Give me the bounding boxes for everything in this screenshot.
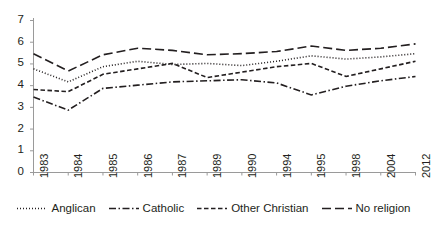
x-axis-tick-label: 1994	[282, 154, 293, 178]
legend-swatch-dashed-short	[197, 205, 227, 212]
x-axis-tick-label: 1998	[351, 154, 362, 178]
x-axis-tick-label: 1983	[39, 154, 50, 178]
y-axis-tick-label: 7	[2, 14, 24, 26]
legend-item-catholic[interactable]: Catholic	[109, 203, 185, 215]
legend-label: No religion	[356, 203, 411, 215]
legend-item-no-religion[interactable]: No religion	[322, 203, 411, 215]
y-axis-ticks	[30, 21, 34, 173]
axes	[30, 18, 416, 176]
y-axis-tick-label: 5	[2, 57, 24, 69]
legend-swatch-dash-dot	[109, 205, 139, 212]
y-axis-tick-label: 4	[2, 79, 24, 91]
data-series-group	[34, 44, 416, 110]
y-axis-tick-label: 3	[2, 101, 24, 113]
x-axis-tick-label: 1989	[212, 154, 223, 178]
x-axis-tick-label: 1990	[247, 154, 258, 178]
x-axis-tick-label: 2012	[421, 154, 432, 178]
series-line-no-religion	[34, 44, 416, 71]
y-axis-tick-label: 6	[2, 36, 24, 48]
x-axis-tick-label: 2004	[386, 154, 397, 178]
series-line-anglican	[34, 54, 416, 82]
legend-label: Other Christian	[231, 203, 308, 215]
legend-label: Anglican	[51, 203, 95, 215]
x-axis-tick-label: 1987	[177, 154, 188, 178]
series-line-catholic	[34, 76, 416, 110]
legend-item-anglican[interactable]: Anglican	[17, 203, 95, 215]
legend-item-other-christian[interactable]: Other Christian	[197, 203, 308, 215]
legend-label: Catholic	[143, 203, 185, 215]
legend-swatch-dotted	[17, 205, 47, 212]
y-axis-tick-label: 2	[2, 123, 24, 135]
x-axis-tick-label: 1984	[73, 154, 84, 178]
y-axis-tick-label: 1	[2, 144, 24, 156]
series-line-other-christian	[34, 61, 416, 91]
y-axis-tick-label: 0	[2, 166, 24, 178]
x-axis-tick-label: 1995	[316, 154, 327, 178]
x-axis-tick-label: 1985	[108, 154, 119, 178]
legend-swatch-dashed-long	[322, 205, 352, 212]
chart-legend: AnglicanCatholicOther ChristianNo religi…	[0, 203, 428, 215]
x-axis-tick-label: 1986	[143, 154, 154, 178]
